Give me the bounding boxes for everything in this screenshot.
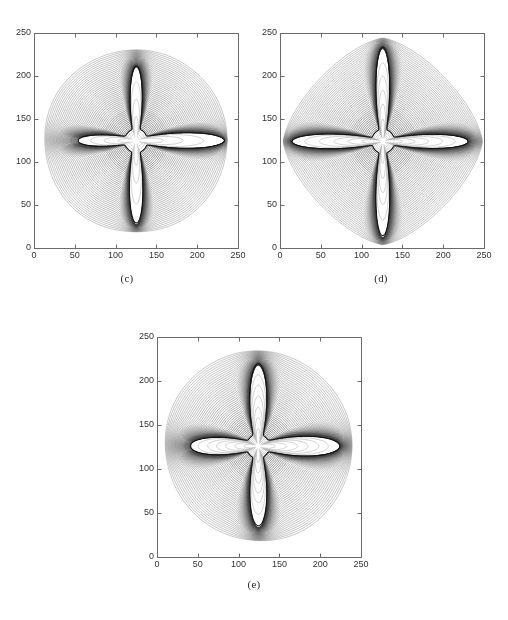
contour-plot-e [123, 310, 385, 620]
contour-plot-d [254, 0, 508, 310]
contour-plot-c [0, 0, 254, 310]
panel-c: (c) [0, 0, 254, 310]
panel-e: (e) [123, 310, 385, 620]
figure-contour-panels: (c) (d) (e) [0, 0, 508, 620]
panel-caption-e: (e) [123, 578, 385, 590]
panel-caption-d: (d) [254, 272, 508, 284]
panel-caption-c: (c) [0, 272, 254, 284]
panel-d: (d) [254, 0, 508, 310]
